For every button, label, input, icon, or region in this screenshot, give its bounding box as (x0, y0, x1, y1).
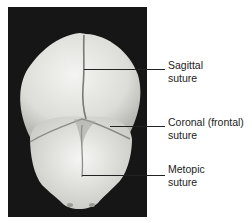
coronal-leader-line (110, 126, 165, 127)
sagittal-suture-label: Sagittal suture (168, 59, 203, 84)
label-line: Metopic (168, 163, 205, 176)
label-line: suture (168, 176, 205, 189)
skull-illustration (8, 7, 147, 217)
sagittal-leader-line (84, 69, 165, 70)
label-line: suture (168, 72, 203, 85)
metopic-suture-label: Metopic suture (168, 163, 205, 188)
coronal-suture-label: Coronal (frontal) suture (168, 116, 244, 141)
metopic-leader-line (82, 175, 165, 176)
skull-photo (8, 7, 147, 217)
anatomical-figure: Sagittal suture Coronal (frontal) suture… (0, 0, 252, 223)
label-line: suture (168, 129, 244, 142)
label-line: Sagittal (168, 59, 203, 72)
label-line: Coronal (frontal) (168, 116, 244, 129)
